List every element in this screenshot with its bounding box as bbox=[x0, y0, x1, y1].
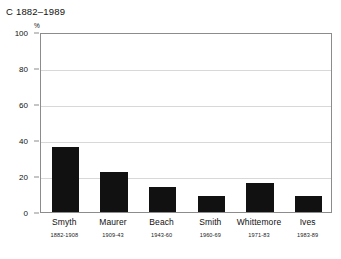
x-axis-year-span-label: 1971-83 bbox=[235, 232, 284, 238]
gridline bbox=[41, 178, 331, 179]
bar bbox=[149, 187, 176, 212]
y-axis-tick-mark bbox=[34, 177, 39, 178]
y-axis-unit-label: % bbox=[34, 22, 40, 29]
y-axis-tick-mark bbox=[34, 105, 39, 106]
bar bbox=[246, 183, 273, 212]
chart-title: C 1882–1989 bbox=[6, 6, 65, 17]
x-axis-label-group: Maurer1909-43 bbox=[89, 217, 138, 238]
x-axis-year-span-label: 1909-43 bbox=[89, 232, 138, 238]
bar-chart-figure: C 1882–1989 % 020406080100 Smyth1882-190… bbox=[0, 0, 341, 259]
y-axis-tick-label: 80 bbox=[2, 65, 28, 74]
y-axis-tick-label: 40 bbox=[2, 137, 28, 146]
y-axis-tick-mark bbox=[34, 69, 39, 70]
gridline bbox=[41, 142, 331, 143]
bar-slot bbox=[52, 34, 79, 212]
x-axis-year-span-label: 1943-60 bbox=[137, 232, 186, 238]
bar bbox=[100, 172, 127, 212]
gridline bbox=[41, 106, 331, 107]
x-axis-label-group: Whittemore1971-83 bbox=[235, 217, 284, 238]
x-axis-label-group: Ives1983-89 bbox=[283, 217, 332, 238]
y-axis-tick-label: 0 bbox=[2, 209, 28, 218]
x-axis-label-group: Beach1943-60 bbox=[137, 217, 186, 238]
x-axis-label-group: Smyth1882-1908 bbox=[40, 217, 89, 238]
x-axis-category-label: Whittemore bbox=[235, 217, 284, 227]
y-axis-tick-mark bbox=[34, 213, 39, 214]
y-axis-tick-label: 20 bbox=[2, 173, 28, 182]
bar-slot bbox=[295, 34, 322, 212]
bar bbox=[295, 196, 322, 212]
x-axis-year-span-label: 1960-69 bbox=[186, 232, 235, 238]
x-axis-label-group: Smith1960-69 bbox=[186, 217, 235, 238]
gridline bbox=[41, 70, 331, 71]
bar-slot bbox=[100, 34, 127, 212]
y-axis-tick-mark bbox=[34, 33, 39, 34]
plot-area bbox=[40, 33, 332, 213]
bar bbox=[52, 147, 79, 212]
x-axis-category-label: Smyth bbox=[40, 217, 89, 227]
x-axis-year-span-label: 1882-1908 bbox=[40, 232, 89, 238]
bar-slot bbox=[246, 34, 273, 212]
bar-slot bbox=[149, 34, 176, 212]
y-axis-tick-label: 100 bbox=[2, 29, 28, 38]
y-axis-tick-label: 60 bbox=[2, 101, 28, 110]
bar-slot bbox=[198, 34, 225, 212]
x-axis-category-label: Smith bbox=[186, 217, 235, 227]
x-axis-year-span-label: 1983-89 bbox=[283, 232, 332, 238]
x-axis-category-label: Beach bbox=[137, 217, 186, 227]
bar bbox=[198, 196, 225, 212]
y-axis-tick-mark bbox=[34, 141, 39, 142]
x-axis-category-label: Maurer bbox=[89, 217, 138, 227]
x-axis-category-label: Ives bbox=[283, 217, 332, 227]
